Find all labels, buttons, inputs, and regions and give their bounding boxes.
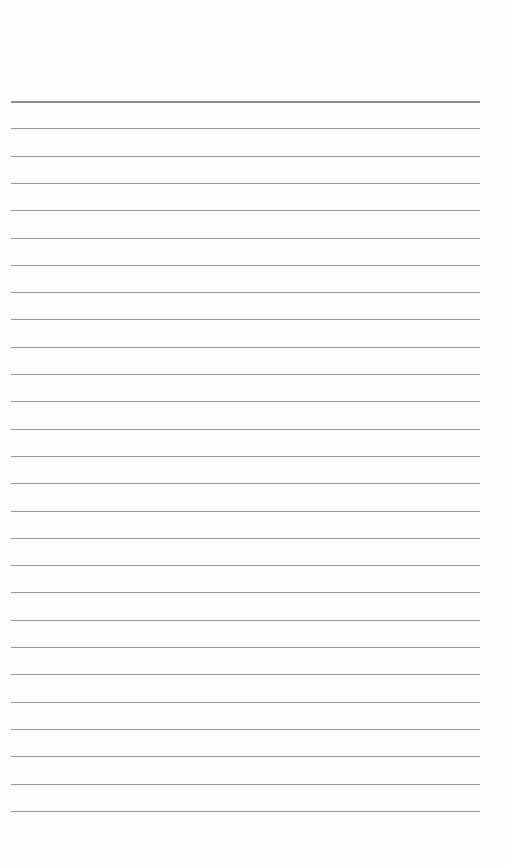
rule-line	[11, 729, 480, 730]
rule-line	[11, 702, 480, 703]
header-rule-line	[11, 101, 480, 103]
ruled-paper-sheet	[0, 0, 508, 867]
rule-line	[11, 784, 480, 785]
rule-line	[11, 647, 480, 648]
rule-line	[11, 511, 480, 512]
rule-line	[11, 265, 480, 266]
rule-line	[11, 538, 480, 539]
rule-line	[11, 483, 480, 484]
rule-line	[11, 592, 480, 593]
rule-line	[11, 401, 480, 402]
rule-line	[11, 210, 480, 211]
rule-line	[11, 347, 480, 348]
rule-line	[11, 756, 480, 757]
rule-line	[11, 620, 480, 621]
rule-line	[11, 128, 480, 129]
rule-line	[11, 456, 480, 457]
rule-line	[11, 374, 480, 375]
rule-line	[11, 156, 480, 157]
rule-line	[11, 183, 480, 184]
rule-line	[11, 429, 480, 430]
rule-line	[11, 292, 480, 293]
rule-line	[11, 238, 480, 239]
rule-line	[11, 319, 480, 320]
rule-line	[11, 674, 480, 675]
rule-line	[11, 811, 480, 812]
rule-line	[11, 565, 480, 566]
